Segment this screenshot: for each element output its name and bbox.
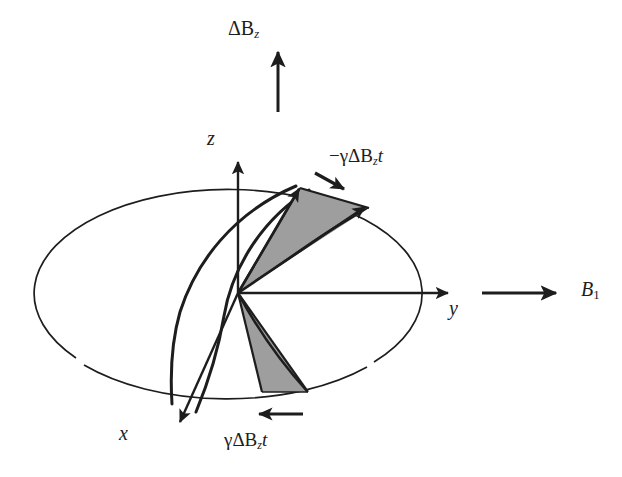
lower-annotation-prefix: γΔB xyxy=(224,429,257,450)
field-arrows xyxy=(278,52,556,293)
upper-annotation-prefix: −γΔB xyxy=(329,145,373,166)
b1-label-text: B xyxy=(581,278,593,300)
delta-bz-label-text: ΔB xyxy=(228,17,254,39)
upper-annotation-suffix: t xyxy=(378,145,383,166)
lower-precession-wedge xyxy=(238,293,308,392)
x-axis xyxy=(180,293,238,422)
bloch-sphere-diagram xyxy=(0,0,622,477)
upper-annotation-label: −γΔBzt xyxy=(329,146,383,167)
delta-bz-subscript: z xyxy=(254,27,259,41)
lower-annotation-label: γΔBzt xyxy=(224,430,267,451)
delta-bz-label: ΔBz xyxy=(228,18,259,41)
z-axis-label: z xyxy=(207,128,215,148)
x-axis-label: x xyxy=(119,423,128,443)
b1-subscript: 1 xyxy=(593,288,599,302)
y-axis-label: y xyxy=(449,298,458,318)
figure-root: ΔBz B1 z y x −γΔBzt γΔBzt xyxy=(0,0,622,477)
upper-annotation-arrow xyxy=(315,173,344,189)
lower-annotation-suffix: t xyxy=(262,429,267,450)
upper-precession-wedge xyxy=(238,188,369,293)
b1-label: B1 xyxy=(581,279,600,302)
